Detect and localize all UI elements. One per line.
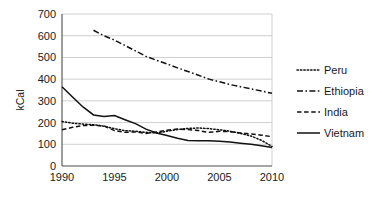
- series-line-ethiopia: [94, 30, 273, 93]
- y-tick-label: 700: [38, 8, 56, 20]
- y-tick-label: 100: [38, 138, 56, 150]
- x-tick-label: 2010: [260, 171, 284, 183]
- series-line-vietnam: [62, 87, 272, 148]
- y-tick-label: 600: [38, 30, 56, 42]
- y-tick-label: 200: [38, 117, 56, 129]
- x-tick-label: 2005: [207, 171, 231, 183]
- chart-legend: PeruEthiopiaIndiaVietnam: [297, 64, 365, 139]
- legend-label-peru: Peru: [324, 64, 347, 76]
- legend-label-india: India: [324, 106, 349, 118]
- series-lines: [62, 30, 272, 147]
- x-tick-label: 2000: [155, 171, 179, 183]
- x-axis-tick-labels: 19901995200020052010: [50, 171, 284, 183]
- y-axis-tick-labels: 0100200300400500600700: [38, 8, 56, 172]
- chart-container: 0100200300400500600700 19901995200020052…: [0, 0, 382, 197]
- legend-label-vietnam: Vietnam: [324, 127, 364, 139]
- x-tick-label: 1990: [50, 171, 74, 183]
- x-tick-label: 1995: [102, 171, 126, 183]
- y-tick-label: 300: [38, 95, 56, 107]
- y-tick-label: 500: [38, 51, 56, 63]
- y-axis-title: kCal: [14, 89, 26, 110]
- line-chart: 0100200300400500600700 19901995200020052…: [0, 0, 382, 197]
- legend-label-ethiopia: Ethiopia: [324, 85, 365, 97]
- y-tick-label: 400: [38, 73, 56, 85]
